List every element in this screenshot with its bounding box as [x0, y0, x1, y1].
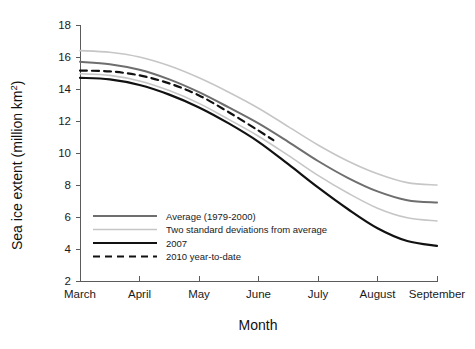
series-line-2010-year-to-date — [80, 71, 273, 141]
y-axis-title-main: Sea ice extent (million km — [9, 90, 25, 250]
x-tick-label-march: March — [64, 288, 96, 300]
y-tick-label: 4 — [65, 243, 72, 255]
series-line-two-standard-deviations-from-average-upper — [80, 51, 437, 185]
chart-canvas: 18161412108642 MarchAprilMayJuneJulyAugu… — [0, 0, 475, 349]
sea-ice-extent-chart: 18161412108642 MarchAprilMayJuneJulyAugu… — [0, 0, 475, 349]
legend-label-1: Two standard deviations from average — [166, 224, 327, 235]
y-axis-tick-labels: 18161412108642 — [58, 19, 71, 287]
legend-label-0: Average (1979-2000) — [166, 211, 256, 222]
x-axis-ticks — [140, 276, 378, 281]
y-axis-title-text: Sea ice extent (million km2) — [8, 81, 25, 250]
y-axis-title-tail: ) — [9, 81, 25, 86]
x-axis-tick-labels: MarchAprilMayJuneJulyAugustSeptember — [64, 288, 465, 300]
y-tick-label: 18 — [58, 19, 71, 31]
y-tick-label: 14 — [58, 83, 71, 95]
legend-label-3: 2010 year-to-date — [166, 251, 241, 262]
chart-legend: Average (1979-2000)Two standard deviatio… — [93, 211, 327, 263]
y-tick-label: 12 — [58, 115, 71, 127]
y-tick-label: 8 — [65, 179, 71, 191]
y-axis-title: Sea ice extent (million km2) — [8, 81, 25, 250]
x-tick-label-september: September — [409, 288, 465, 300]
x-tick-label-june: June — [246, 288, 271, 300]
legend-label-2: 2007 — [166, 238, 187, 249]
y-axis-ticks — [76, 25, 80, 281]
x-tick-label-august: August — [360, 288, 397, 300]
y-tick-label: 16 — [58, 51, 71, 63]
y-tick-label: 6 — [65, 211, 71, 223]
series-line-two-standard-deviations-from-average-lower — [80, 74, 437, 221]
x-tick-label-april: April — [128, 288, 151, 300]
y-tick-label: 2 — [65, 275, 71, 287]
x-axis-title-text: Month — [239, 317, 278, 333]
x-tick-label-july: July — [308, 288, 329, 300]
series-line-2007 — [80, 78, 437, 246]
y-tick-label: 10 — [58, 147, 71, 159]
x-tick-label-may: May — [188, 288, 210, 300]
